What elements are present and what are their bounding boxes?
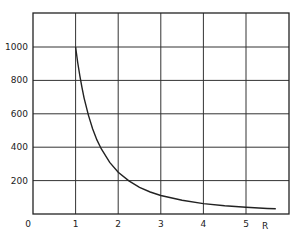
x-tick-label: 3	[158, 219, 164, 229]
y-tick-label: 600	[11, 109, 28, 119]
y-axis-tick-labels: 2004006008001000	[5, 42, 28, 186]
grid-lines	[33, 13, 289, 214]
x-axis-label: R	[262, 221, 268, 231]
y-tick-label: 1000	[5, 42, 28, 52]
y-tick-label: 200	[11, 176, 28, 186]
y-tick-label: 400	[11, 142, 28, 152]
x-tick-label: 1	[73, 219, 79, 229]
x-tick-label: 2	[115, 219, 121, 229]
y-tick-label: 800	[11, 75, 28, 85]
x-tick-label: 0	[25, 219, 31, 229]
x-axis-tick-labels: 012345	[25, 219, 249, 229]
x-tick-label: 4	[201, 219, 207, 229]
x-tick-label: 5	[243, 219, 249, 229]
line-chart: 2004006008001000 012345 R	[0, 0, 300, 235]
